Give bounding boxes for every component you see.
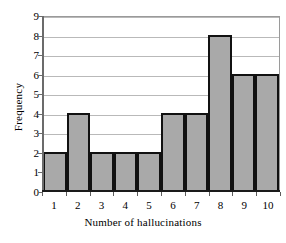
x-axis-title: Number of hallucinations	[0, 216, 286, 228]
bar	[232, 74, 256, 191]
bar	[114, 152, 138, 191]
bar	[161, 113, 185, 191]
y-tick-label: 2	[17, 147, 39, 158]
bar	[185, 113, 209, 191]
x-tick-mark	[66, 192, 67, 196]
bar	[137, 152, 161, 191]
bar	[67, 113, 91, 191]
bar-slot	[161, 17, 185, 191]
bar-slot	[232, 17, 256, 191]
y-tick-label: 8	[17, 30, 39, 41]
y-tick-label: 4	[17, 108, 39, 119]
x-tick-label: 7	[185, 197, 209, 213]
x-tick-label: 9	[232, 197, 256, 213]
y-tick-label: 0	[17, 187, 39, 198]
y-tick-label: 5	[17, 89, 39, 100]
x-tick-mark	[137, 192, 138, 196]
bar	[90, 152, 114, 191]
x-tick-label: 10	[256, 197, 280, 213]
bar-slot	[67, 17, 91, 191]
x-tick-label: 2	[66, 197, 90, 213]
x-tick-mark	[42, 192, 43, 196]
x-tick-label: 1	[42, 197, 66, 213]
bar	[255, 74, 279, 191]
x-axis-labels: 12345678910	[42, 197, 280, 213]
bar-slot	[208, 17, 232, 191]
bar-slot	[185, 17, 209, 191]
x-tick-label: 8	[209, 197, 233, 213]
x-tick-label: 4	[113, 197, 137, 213]
x-tick-label: 6	[161, 197, 185, 213]
bar	[208, 35, 232, 191]
y-tick-label: 6	[17, 69, 39, 80]
x-tick-mark	[90, 192, 91, 196]
x-tick-mark	[280, 192, 281, 196]
x-tick-mark	[161, 192, 162, 196]
bars-layer	[43, 17, 279, 191]
x-tick-mark	[185, 192, 186, 196]
x-tick-mark	[256, 192, 257, 196]
bar-slot	[90, 17, 114, 191]
bar-slot	[255, 17, 279, 191]
y-tick-label: 7	[17, 50, 39, 61]
plot-area	[42, 16, 280, 192]
bar-slot	[114, 17, 138, 191]
x-tick-mark	[209, 192, 210, 196]
x-tick-label: 5	[137, 197, 161, 213]
y-tick-label: 3	[17, 128, 39, 139]
y-axis-line	[42, 16, 44, 192]
bar-slot	[137, 17, 161, 191]
y-tick-label: 1	[17, 167, 39, 178]
y-tick-label: 9	[17, 11, 39, 22]
histogram-chart: Frequency 0123456789 12345678910 Number …	[0, 0, 286, 243]
bar	[43, 152, 67, 191]
x-tick-mark	[113, 192, 114, 196]
x-tick-label: 3	[90, 197, 114, 213]
x-tick-mark	[232, 192, 233, 196]
bar-slot	[43, 17, 67, 191]
